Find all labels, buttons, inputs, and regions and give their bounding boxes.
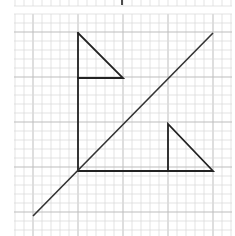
upper-triangle	[78, 33, 123, 78]
top-strip-grid	[14, 0, 232, 6]
graph-paper-diagram	[0, 0, 235, 236]
